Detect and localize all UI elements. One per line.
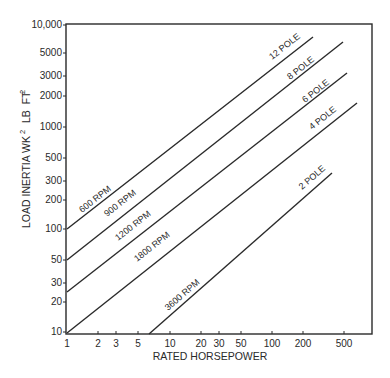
- pole-label-2: 2 POLE: [297, 163, 327, 191]
- y-tick-label: 2000: [40, 90, 63, 101]
- line-1800-rpm: [67, 103, 357, 333]
- y-axis-title-sup: 2: [18, 130, 27, 134]
- x-tick-label: 3: [113, 338, 119, 349]
- pole-label-4: 4 POLE: [307, 104, 338, 131]
- x-tick-label: 500: [336, 338, 353, 349]
- series-lines: [67, 37, 357, 334]
- x-tick-label: 50: [235, 338, 247, 349]
- y-axis-title-main: LOAD INERTIA WK: [20, 136, 32, 228]
- pole-label-6: 6 POLE: [300, 77, 331, 104]
- y-axis: 10,000 5000 3000 2000 1000 500 300 200 1…: [31, 19, 66, 337]
- y-tick-label: 3000: [40, 70, 63, 81]
- inertia-chart: 10,000 5000 3000 2000 1000 500 300 200 1…: [0, 0, 390, 378]
- y-axis-title: LOAD INERTIA WK 2 LB FT 2: [18, 90, 32, 228]
- line-600-rpm: [67, 37, 313, 229]
- rpm-label-3600: 3600 RPM: [163, 277, 202, 312]
- y-tick-label: 100: [45, 223, 62, 234]
- y-tick-label: 30: [51, 277, 63, 288]
- line-900-rpm: [67, 42, 343, 260]
- y-tick-label: 20: [51, 296, 63, 307]
- pole-labels: 12 POLE 8 POLE 6 POLE 4 POLE 2 POLE: [267, 31, 338, 191]
- y-tick-label: 500: [45, 152, 62, 163]
- x-axis-title: RATED HORSEPOWER: [153, 350, 268, 362]
- y-tick-label: 1000: [40, 121, 63, 132]
- x-tick-label: 2: [95, 338, 101, 349]
- line-3600-rpm: [149, 173, 332, 334]
- y-tick-label: 300: [45, 175, 62, 186]
- pole-label-8: 8 POLE: [285, 54, 316, 81]
- y-axis-title-unit: LB FT: [20, 91, 32, 123]
- x-tick-label: 100: [264, 338, 281, 349]
- y-axis-title-unit-sup: 2: [18, 90, 27, 94]
- y-tick-label: 10: [51, 326, 63, 337]
- y-tick-label: 10,000: [31, 19, 62, 30]
- x-tick-label: 30: [213, 338, 225, 349]
- y-tick-label: 50: [51, 254, 63, 265]
- x-tick-label: 200: [295, 338, 312, 349]
- x-tick-label: 5: [135, 338, 141, 349]
- x-tick-label: 1: [64, 338, 70, 349]
- y-tick-label: 200: [45, 194, 62, 205]
- x-tick-label: 20: [195, 338, 207, 349]
- rpm-label-1200: 1200 RPM: [113, 209, 153, 243]
- pole-label-12: 12 POLE: [267, 31, 302, 61]
- x-tick-label: 10: [164, 338, 176, 349]
- y-tick-label: 5000: [40, 47, 63, 58]
- rpm-label-1800: 1800 RPM: [132, 230, 172, 264]
